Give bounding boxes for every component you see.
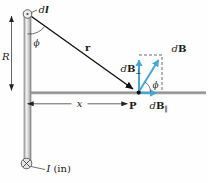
current-label: I(in) [46, 163, 71, 174]
dB-label: dB [172, 43, 187, 54]
current-element-dot [26, 13, 28, 15]
R-label: R [1, 51, 10, 62]
dl-label: dl [39, 4, 49, 15]
phi-at-P-label: ϕ [152, 80, 158, 90]
r-label: r [85, 42, 91, 53]
diagram-canvas: R x r ϕ dl ϕ P dB⊥ dB dB∥ [0, 0, 208, 183]
biot-savart-figure: R x r ϕ dl ϕ P dB⊥ dB dB∥ [0, 0, 208, 183]
r-vector-arrow [32, 17, 134, 90]
phi-top-label: ϕ [33, 38, 39, 48]
dl-leader-line [32, 10, 38, 13]
x-label: x [77, 98, 83, 109]
phi-angle-arc-at-P [145, 82, 151, 92]
dB-parallel-label: dB∥ [150, 100, 168, 113]
current-leader-line [31, 167, 45, 170]
wire-rod [24, 12, 31, 164]
point-P-dot [137, 91, 141, 95]
P-label: P [129, 100, 137, 111]
